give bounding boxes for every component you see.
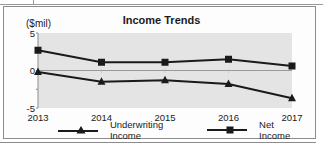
triangle-marker-icon [58,125,98,135]
square-marker-icon [289,63,296,70]
divider [0,142,316,143]
legend-item-underwriting-income: Underwriting Income [58,119,185,141]
square-marker-icon [207,125,247,135]
y-tick-label: 5 [30,28,35,39]
y-tick-label: 0 [30,65,35,76]
chart-legend: Underwriting Income Net Income [58,124,323,136]
legend-item-net-income: Net Income [207,119,301,141]
square-marker-icon [98,59,105,66]
legend-label: Underwriting Income [110,119,186,141]
square-marker-icon [225,56,232,63]
square-marker-icon [162,59,169,66]
square-marker-icon [35,47,42,54]
legend-label: Net Income [259,119,301,141]
x-tick-label: 2013 [27,112,48,123]
